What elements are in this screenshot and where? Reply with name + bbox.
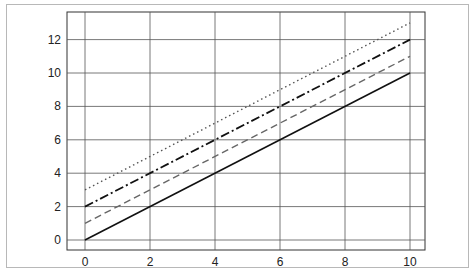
- x-axis-ticks: 0246810: [82, 255, 417, 269]
- x-tick-label: 10: [403, 255, 417, 269]
- x-tick-label: 4: [212, 255, 219, 269]
- y-tick-label: 10: [48, 66, 62, 80]
- y-tick-label: 2: [54, 200, 61, 214]
- plot-area: [67, 12, 425, 250]
- x-tick-label: 8: [342, 255, 349, 269]
- y-tick-label: 4: [54, 166, 61, 180]
- x-tick-label: 0: [82, 255, 89, 269]
- y-tick-label: 12: [48, 33, 62, 47]
- y-axis-ticks: 024681012: [48, 33, 62, 247]
- x-tick-label: 2: [147, 255, 154, 269]
- y-tick-label: 6: [54, 133, 61, 147]
- y-tick-label: 0: [54, 233, 61, 247]
- x-tick-label: 6: [277, 255, 284, 269]
- line-chart: 0246810 024681012: [0, 0, 474, 273]
- y-tick-label: 8: [54, 99, 61, 113]
